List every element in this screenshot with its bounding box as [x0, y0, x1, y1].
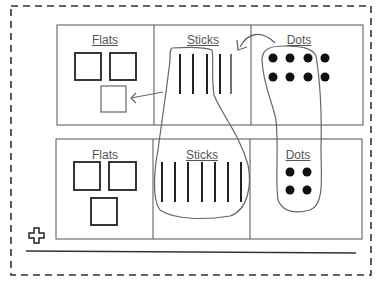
label-flats-top: Flats	[92, 34, 118, 46]
baseline	[26, 251, 356, 253]
bottom-sticks	[162, 162, 241, 202]
label-sticks-top: Sticks	[187, 34, 219, 46]
bottom-dots	[286, 168, 312, 195]
diagram-canvas: Flats Sticks Dots Flats Sticks Dots	[0, 0, 376, 282]
label-dots-bottom: Dots	[286, 149, 311, 161]
label-sticks-bottom: Sticks	[186, 149, 218, 161]
top-dots	[269, 54, 330, 82]
bottom-flats	[74, 162, 136, 225]
plus-icon[interactable]	[29, 228, 44, 243]
label-flats-bottom: Flats	[92, 149, 118, 161]
top-flats	[75, 53, 136, 112]
arrow-to-sticks	[240, 34, 275, 47]
top-sticks	[180, 54, 231, 94]
label-dots-top: Dots	[287, 34, 312, 46]
